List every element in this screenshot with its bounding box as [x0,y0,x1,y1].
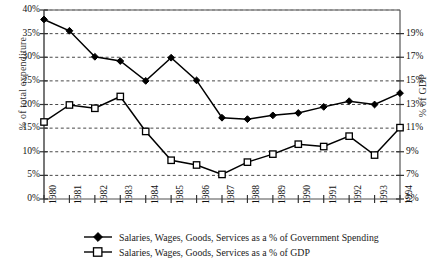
legend-label: Salaries, Wages, Goods, Services as a % … [119,247,310,258]
legend-label: Salaries, Wages, Goods, Services as a % … [119,232,379,243]
chart-container: % of total expenditure % of GDP 0%5%10%1… [0,0,443,263]
plot-area [0,0,443,263]
open-square-icon [83,246,113,258]
legend-item-gdp: Salaries, Wages, Goods, Services as a % … [83,246,310,258]
legend-item-government-spending: Salaries, Wages, Goods, Services as a % … [83,231,379,243]
filled-diamond-icon [83,231,113,243]
